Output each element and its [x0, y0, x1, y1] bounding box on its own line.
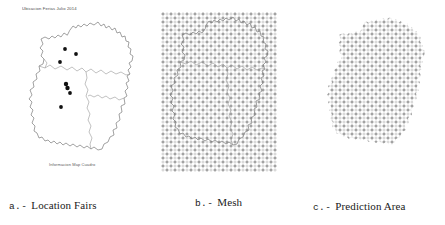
panel-location-fairs: Ubicacion Ferias Julio 2014 Inform: [0, 0, 155, 185]
prediction-area-plot: [318, 12, 436, 172]
figure-canvas: Ubicacion Ferias Julio 2014 Inform: [0, 0, 445, 225]
panel-mesh: [155, 0, 290, 185]
caption-a-label: Location Fairs: [31, 199, 96, 211]
caption-b-tag: b.-: [195, 198, 213, 209]
mesh-grid-plot: [161, 12, 277, 172]
caption-a-tag: a.-: [9, 201, 27, 212]
region-internal-boundaries-a: [39, 59, 130, 149]
panel-prediction-area: [300, 0, 445, 185]
panel-a-title: Ubicacion Ferias Julio 2014: [22, 6, 77, 11]
panel-a-source-note: Informacion Map Cuadro: [49, 162, 95, 167]
caption-panel-b: b.-Mesh: [195, 196, 242, 209]
caption-c-label: Prediction Area: [335, 200, 405, 212]
map-location-fairs: [20, 16, 148, 164]
mesh-node-grid: [161, 12, 276, 171]
region-outline-a: [29, 22, 133, 150]
caption-panel-a: a.-Location Fairs: [9, 199, 97, 212]
fair-markers-a: [58, 47, 78, 109]
caption-b-label: Mesh: [217, 196, 242, 208]
caption-c-tag: c.-: [313, 202, 331, 213]
caption-panel-c: c.-Prediction Area: [313, 200, 406, 213]
prediction-node-grid: [318, 12, 433, 171]
